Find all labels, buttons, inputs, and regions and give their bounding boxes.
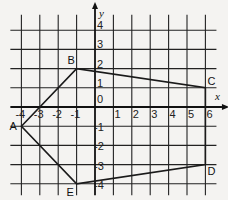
- x-tick-label: -4: [15, 108, 25, 120]
- x-axis-arrow-icon: [222, 104, 228, 110]
- point-label-c: C: [207, 75, 215, 87]
- coordinate-grid: -4-3-2-11234564321-1-2-3-4 ABCDE x y 0: [0, 0, 228, 200]
- y-tick-label: 2: [97, 58, 103, 70]
- point-label-b: B: [68, 54, 75, 66]
- origin-label: 0: [97, 93, 103, 105]
- x-tick-label: 3: [151, 108, 157, 120]
- x-tick-label: 5: [188, 108, 194, 120]
- y-tick-label: 3: [97, 38, 103, 50]
- point-label-e: E: [67, 186, 74, 198]
- point-label-a: A: [9, 120, 17, 132]
- y-tick-label: 1: [97, 77, 103, 89]
- x-tick-label: 2: [133, 108, 139, 120]
- y-axis-label: y: [98, 7, 104, 19]
- y-tick-label: -3: [94, 160, 104, 172]
- x-tick-label: -2: [52, 108, 62, 120]
- y-tick-label: -4: [94, 179, 104, 191]
- point-label-d: D: [207, 165, 215, 177]
- x-tick-label: -3: [34, 108, 44, 120]
- x-tick-label: 1: [114, 108, 120, 120]
- x-axis-label: x: [214, 90, 220, 102]
- x-tick-label: 4: [170, 108, 176, 120]
- y-tick-label: -1: [94, 121, 104, 133]
- y-axis-arrow-icon: [92, 2, 98, 9]
- y-tick-label: -2: [94, 140, 104, 152]
- y-tick-label: 4: [97, 19, 103, 31]
- x-tick-label: 6: [206, 108, 212, 120]
- x-tick-label: -1: [71, 108, 81, 120]
